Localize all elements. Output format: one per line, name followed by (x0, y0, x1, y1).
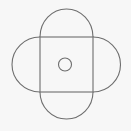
square (40, 37, 93, 92)
bottom-semicircle (40, 92, 93, 119)
diagram-canvas (0, 0, 131, 131)
center-circle (59, 58, 72, 71)
left-semicircle (12, 37, 40, 92)
top-semicircle (40, 9, 93, 37)
right-semicircle (93, 37, 120, 92)
